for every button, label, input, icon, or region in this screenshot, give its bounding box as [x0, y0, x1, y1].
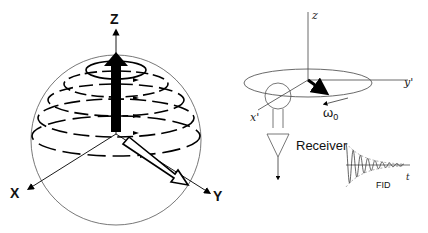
- receiver-label: Receiver: [296, 138, 348, 153]
- z-prime-label: z: [311, 9, 318, 22]
- rotating-vector: [308, 80, 322, 90]
- y-prime-label: y': [403, 76, 413, 89]
- fid-envelope-bottom: [346, 166, 404, 187]
- y-axis-label: Y: [213, 188, 223, 204]
- x-axis: [30, 134, 116, 188]
- amplifier-icon: [267, 134, 289, 157]
- fid-plot: FID t: [346, 143, 410, 190]
- rotating-frame: z y' x' ω0 Receiver: [244, 9, 413, 178]
- time-label: t: [406, 172, 410, 182]
- bloch-sphere: Z X Y: [10, 11, 223, 225]
- transverse-magnetization-vector: [123, 137, 188, 185]
- x-prime-axis: [258, 80, 308, 110]
- x-axis-label: X: [10, 185, 20, 201]
- omega-label: ω0: [323, 105, 338, 122]
- z-axis-label: Z: [110, 11, 119, 27]
- fid-signal: [346, 143, 404, 183]
- fid-label: FID: [376, 180, 391, 190]
- rotation-direction-arrow: [325, 98, 348, 104]
- magnetization-vector: [104, 52, 128, 132]
- x-prime-label: x': [250, 111, 259, 124]
- nmr-precession-diagram: Z X Y z y' x' ω0 Receiver FID t: [0, 0, 428, 233]
- diagram-canvas: Z X Y z y' x' ω0 Receiver FID t: [0, 0, 428, 233]
- coil-lead: [273, 109, 283, 128]
